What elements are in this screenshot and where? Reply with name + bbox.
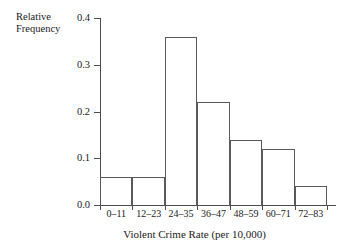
y-axis-tick-label: 0.4: [66, 13, 90, 24]
x-axis-tick-label: 12–23: [132, 208, 164, 220]
histogram-bar: [165, 37, 197, 205]
x-axis-tick-label: 60–71: [262, 208, 294, 220]
histogram-bar: [262, 149, 294, 205]
x-axis-tick-label: 48–59: [230, 208, 262, 220]
y-axis-tick-label: 0.0: [66, 200, 90, 211]
histogram-bar: [100, 177, 132, 205]
x-axis-tick-label: 0–11: [100, 208, 132, 220]
histogram-bar: [197, 102, 229, 205]
x-axis-title: Violent Crime Rate (per 10,000): [0, 228, 347, 241]
x-axis-tick-label: 24–35: [165, 208, 197, 220]
y-axis-tick-label: 0.2: [66, 107, 90, 118]
histogram-bar: [295, 186, 327, 205]
x-axis-tick-mark: [327, 205, 328, 210]
histogram-chart: Relative Frequency 0.00.10.20.30.4 0–111…: [0, 0, 347, 251]
x-axis-tick-label: 72–83: [295, 208, 327, 220]
y-axis-tick-label: 0.3: [66, 60, 90, 71]
y-axis-tick-label: 0.1: [66, 153, 90, 164]
plot-area: [100, 18, 327, 205]
x-axis-tick-label: 36–47: [197, 208, 229, 220]
x-axis-line: [100, 205, 336, 206]
histogram-bar: [230, 140, 262, 205]
histogram-bar: [132, 177, 164, 205]
